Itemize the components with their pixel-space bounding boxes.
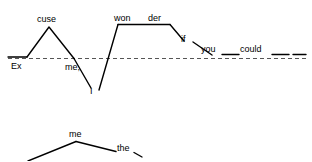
segment-cuse-peak bbox=[27, 27, 74, 59]
syllable-label-i: I bbox=[90, 86, 93, 96]
syllable-label-if: if bbox=[181, 34, 186, 44]
segment-rise-to-me bbox=[28, 142, 76, 162]
segment-me-to-the-fall bbox=[76, 142, 116, 152]
syllable-label-you: you bbox=[201, 44, 216, 54]
intonation-contour-figure: Ex cuse me, I won der if you could me th… bbox=[0, 0, 312, 161]
syllable-label-the-second: the bbox=[117, 143, 130, 153]
contour-drawing bbox=[0, 0, 312, 161]
syllable-label-der: der bbox=[148, 13, 161, 23]
syllable-label-cuse: cuse bbox=[37, 14, 56, 24]
segment-i-to-won-rise bbox=[99, 25, 118, 91]
syllable-label-could: could bbox=[240, 44, 262, 54]
syllable-label-won: won bbox=[114, 13, 131, 23]
syllable-label-me: me, bbox=[65, 62, 80, 72]
syllable-label-ex: Ex bbox=[11, 61, 22, 71]
syllable-label-me-second: me bbox=[69, 129, 82, 139]
segment-after-the-fall bbox=[134, 153, 142, 158]
utterance-1-contour bbox=[8, 25, 306, 91]
